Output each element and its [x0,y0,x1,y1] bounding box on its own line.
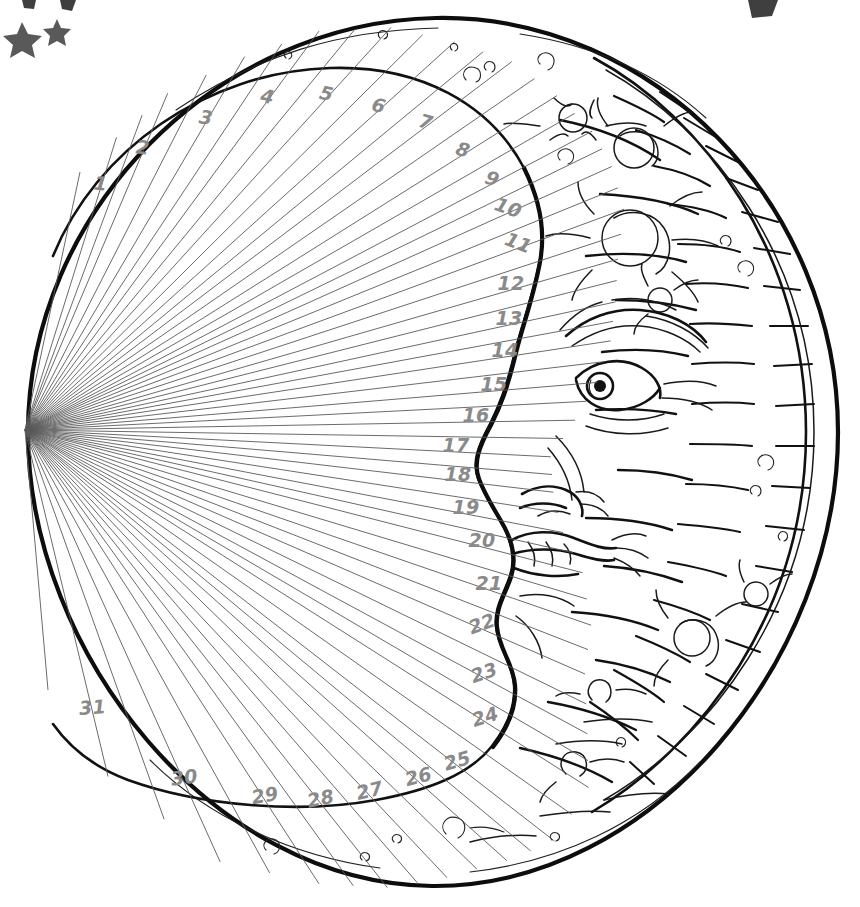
day-number-20[interactable]: 20 [469,529,496,551]
fan-left-edge-bottom [25,430,48,690]
calendar-ray-divider-14 [25,362,604,430]
calendar-ray-6[interactable] [25,42,454,430]
day-number-14[interactable]: 14 [492,339,519,361]
face-chin [516,594,574,658]
day-number-5[interactable]: 5 [318,81,336,105]
speckle-e [284,51,291,59]
crater-4 [648,288,672,312]
calendar-ray-8[interactable] [25,96,557,430]
star-small-icon [43,19,71,46]
calendar-ray-divider-6 [25,52,483,430]
day-number-8[interactable]: 8 [453,137,472,162]
crater-6 [744,582,768,606]
day-number-13[interactable]: 13 [496,307,523,329]
calendar-ray-divider-5 [25,35,423,430]
day-number-1[interactable]: 1 [93,171,108,194]
day-number-11[interactable]: 11 [502,227,535,257]
calendar-ray-7[interactable] [25,62,512,430]
face-nose [520,487,608,516]
day-number-29[interactable]: 29 [250,782,280,808]
face-eye [576,361,716,434]
day-number-28[interactable]: 28 [305,785,336,812]
crater-1 [559,104,587,132]
speckle-l [778,532,787,541]
crescent-rim-hatching [520,58,814,812]
rim-ticks [630,92,814,784]
day-number-19[interactable]: 19 [453,496,480,518]
clipped-mark-top-left-b [60,0,76,11]
calendar-ray-divider-7 [25,79,534,430]
eye-pupil [594,380,606,392]
day-number-18[interactable]: 18 [445,463,472,485]
speckle-h [720,236,731,246]
calendar-ray-divider-22 [25,430,586,704]
day-number-21[interactable]: 21 [476,572,503,594]
speckle-g [558,149,574,164]
crater-5 [674,620,710,656]
crater-7 [588,680,611,702]
speckle-j [758,455,774,470]
speckle-a [484,62,495,72]
calendar-ray-divider-26 [25,430,477,869]
speckle-m [616,738,625,747]
speckle-b [464,67,481,82]
day-number-12[interactable]: 12 [498,272,525,294]
calendar-ray-14[interactable] [25,341,611,430]
clipped-mark-top-left-a [22,0,36,9]
calendar-ray-divider-13 [25,321,613,430]
calendar-ray-divider-12 [25,281,617,431]
calendar-ray-divider-20 [25,430,587,599]
calendar-ray-divider-1 [25,115,142,430]
crater-9-rays [470,827,504,832]
speckle-n [550,833,559,841]
day-number-30[interactable]: 30 [169,764,198,789]
crater-2 [614,128,654,168]
day-number-16[interactable]: 16 [463,404,490,426]
star-large-icon [3,22,42,58]
speckle-k [750,486,761,496]
day-number-23[interactable]: 23 [468,658,500,687]
crater-2-inner [620,132,658,166]
day-number-2[interactable]: 2 [135,135,151,158]
day-number-17[interactable]: 17 [443,434,470,456]
day-number-31[interactable]: 31 [78,695,106,719]
rim-feather-strokes [590,96,754,740]
calendar-ray-divider-25 [25,430,531,851]
day-number-4[interactable]: 4 [258,84,276,108]
calendar-ray-fan [25,27,624,887]
rim-inner-arc [592,58,806,812]
day-number-6[interactable]: 6 [370,93,388,118]
speckle-i [738,261,754,276]
calendar-ray-divider-2 [25,75,206,430]
artwork-canvas: 1234567891011121314151617181920212223242… [0,0,860,907]
day-number-3[interactable]: 3 [198,105,215,129]
calendar-ray-15[interactable] [25,382,597,430]
day-number-25[interactable]: 25 [441,746,473,774]
crescent-terminator [53,68,716,807]
crater-7-rays [556,689,646,696]
calendar-ray-divider-4 [25,29,355,430]
star-field [3,0,778,58]
day-number-9[interactable]: 9 [482,166,502,191]
rim-accent-upper-2 [520,34,706,118]
speckle-f [538,53,554,70]
speckle-q [392,835,401,843]
clipped-mark-top-right [748,0,778,18]
calendar-ray-29[interactable] [25,430,319,884]
moon-illustration: 1234567891011121314151617181920212223242… [0,0,860,907]
calendar-ray-divider-28 [25,430,353,886]
day-number-15[interactable]: 15 [481,373,508,395]
rim-accent-lower-2 [470,762,700,872]
